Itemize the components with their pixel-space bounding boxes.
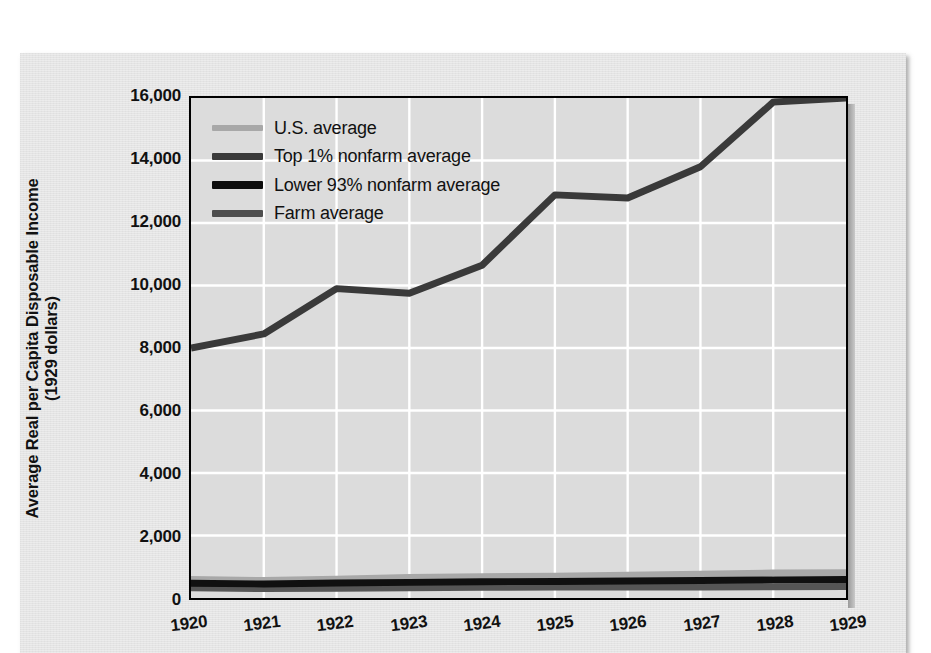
- legend-swatch-icon: [212, 153, 263, 160]
- x-axis-tick-label: 1927: [682, 612, 721, 636]
- y-axis-tick-label: 12,000: [93, 212, 181, 232]
- y-axis-tick-labels: 02,0004,0006,0008,00010,00012,00014,0001…: [93, 0, 181, 643]
- y-axis-tick-label: 10,000: [93, 275, 181, 295]
- y-axis-title-line2: (1929 dollars): [42, 178, 61, 518]
- y-axis-tick-label: 4,000: [93, 464, 181, 484]
- y-axis-title-line1: Average Real per Capita Disposable Incom…: [23, 178, 41, 518]
- legend-label: Farm average: [274, 203, 384, 224]
- plot-drop-shadow: [848, 104, 855, 608]
- legend-item: Farm average: [212, 200, 592, 229]
- legend-swatch-icon: [212, 125, 263, 131]
- legend-label: U.S. average: [274, 118, 377, 139]
- legend-item: Top 1% nonfarm average: [212, 143, 592, 172]
- x-axis-tick-label: 1923: [389, 612, 428, 636]
- x-axis-tick-label: 1924: [462, 612, 501, 636]
- y-axis-tick-label: 0: [93, 590, 181, 610]
- legend-label: Lower 93% nonfarm average: [274, 175, 500, 196]
- x-axis-tick-label: 1926: [609, 612, 648, 636]
- y-axis-tick-label: 16,000: [93, 86, 181, 106]
- legend-label: Top 1% nonfarm average: [274, 146, 471, 167]
- chart-legend: U.S. averageTop 1% nonfarm averageLower …: [212, 114, 592, 228]
- legend-item: U.S. average: [212, 114, 592, 143]
- y-axis-tick-label: 6,000: [93, 401, 181, 421]
- x-axis-tick-label: 1925: [536, 612, 575, 636]
- x-axis-tick-label: 1928: [755, 612, 794, 636]
- x-axis-tick-label: 1921: [243, 612, 282, 636]
- legend-swatch-icon: [212, 210, 263, 217]
- legend-item: Lower 93% nonfarm average: [212, 171, 592, 200]
- y-axis-tick-label: 8,000: [93, 338, 181, 358]
- x-axis-tick-labels: 1920192119221923192419251926192719281929: [189, 604, 848, 643]
- series-line-lower-93-nonfarm-average: [191, 580, 846, 584]
- x-axis-tick-label: 1922: [316, 612, 355, 636]
- x-axis-tick-label: 1920: [169, 612, 208, 636]
- y-axis-tick-label: 2,000: [93, 527, 181, 547]
- legend-swatch-icon: [212, 181, 263, 189]
- y-axis-title: Average Real per Capita Disposable Incom…: [22, 96, 62, 601]
- y-axis-tick-label: 14,000: [93, 149, 181, 169]
